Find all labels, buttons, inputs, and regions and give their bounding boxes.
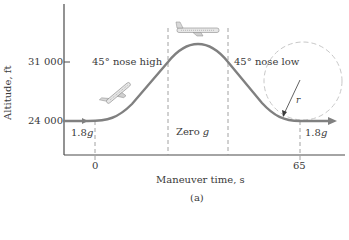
y-tick-label-31000: 31 000 (28, 56, 63, 67)
entry-arrow-icon (82, 118, 88, 124)
y-tick-label-24000: 24 000 (28, 115, 63, 126)
exit-arrow-icon (328, 117, 337, 125)
airplane-level-icon (176, 22, 219, 36)
phase-label-nose-low: 45° nose low (234, 56, 299, 67)
radius-label: r (296, 95, 300, 105)
exit-g-label: 1.8g (305, 127, 327, 138)
phase-label-nose-high: 45° nose high (92, 56, 162, 67)
figure-caption: (a) (190, 192, 204, 203)
entry-g-label: 1.8g (71, 127, 93, 138)
curvature-circle (264, 42, 342, 120)
x-axis-label: Maneuver time, s (156, 174, 245, 185)
phase-label-zero-g: Zero g (176, 126, 209, 137)
y-axis-label: Altitude, ft (2, 66, 13, 121)
x-tick-label-65: 65 (293, 160, 306, 171)
x-tick-label-0: 0 (92, 160, 98, 171)
radius-arrowhead-icon (282, 110, 287, 117)
